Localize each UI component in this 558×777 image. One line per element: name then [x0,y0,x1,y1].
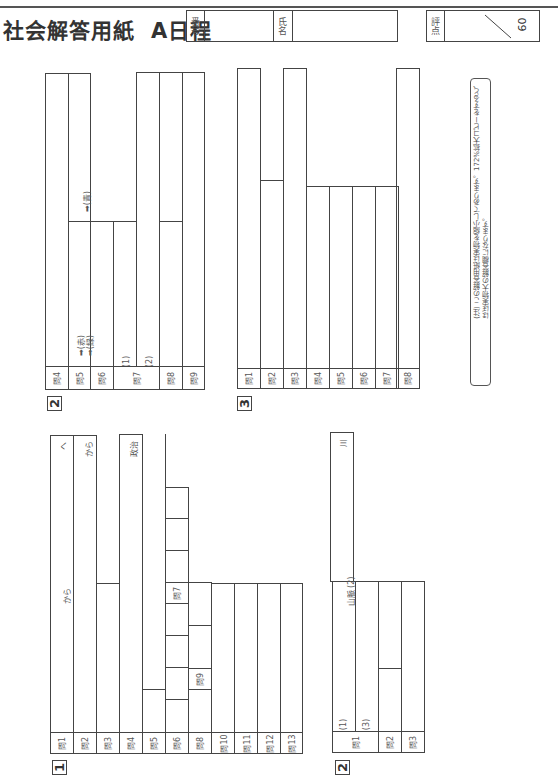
note-line-2: ほぼ実物大の解答欄になります。 [482,214,490,319]
arrow-green-label: (緑) [86,335,95,349]
hint-q1-from: から [58,590,74,601]
label-1-q12: 問12 [257,732,281,754]
label-3-q5: 問5 [329,368,353,389]
student-info-box: 番号 氏名 [186,10,398,42]
page-title: 社会解答用紙A日程 [3,14,212,44]
label-3-q3: 問3 [283,368,307,389]
score-label-cell: 評点 [427,11,445,41]
answer-3-q1[interactable] [237,68,261,369]
label-2-q8: 問8 [159,366,183,390]
label-3-q4: 問4 [306,368,330,389]
label-2-q5: 問5 [68,366,91,390]
answer-2-q7-2[interactable] [136,72,160,367]
answer-1-q5[interactable] [142,689,166,733]
answer-1-q7-b[interactable] [165,518,189,551]
answer-2-q4[interactable] [45,73,69,367]
answer-2-q8-top[interactable] [159,72,183,222]
label-2-q6: 問6 [90,366,114,390]
arrow-blue-hint: ➡(青) [76,196,97,207]
answer-1-q6-b[interactable] [165,635,189,668]
name-label-cell: 氏名 [273,11,293,41]
top-rule [0,6,558,8]
name-field[interactable] [292,11,397,41]
label-2-q1: 問1 [332,731,379,753]
answer-2-q1-3[interactable] [355,581,379,732]
answer-2-q7-1[interactable] [113,221,137,367]
score-total: 60 [516,18,529,32]
section-number-3: 3 [237,396,252,411]
title-text: 社会解答用紙 [3,19,135,43]
hint-river: 川 [338,437,346,448]
label-1-q1: 問1 [50,732,74,754]
answer-2-q8[interactable] [159,221,183,367]
label-1-q2: 問2 [73,732,97,754]
answer-1-q11[interactable] [234,583,258,733]
note-line-1: (注) この解答用紙は実物を縮小してあります。172%拡大コピーをすると、 [473,81,481,319]
label-3-q1: 問1 [237,368,261,389]
label-1-q4: 問4 [119,732,143,754]
label-1-q5: 問5 [142,732,166,754]
label-1-q8: 問8 [188,732,212,754]
sub-label-2: (2) [144,357,155,366]
answer-2-q9[interactable] [182,72,205,367]
section-number-2-lower: 2 [335,760,350,775]
label-1-q13: 問13 [280,732,303,754]
hint-q2-from: から [80,443,96,454]
section-number-2-upper: 2 [47,396,62,411]
label-2-q2: 問2 [378,731,402,753]
answer-1-q8[interactable] [188,689,212,733]
label-2-q7: 問7 [113,366,160,390]
label-1-q6: 問6 [165,732,189,754]
answer-3-q5[interactable] [329,186,353,369]
arrow-blue-icon: ➡ [83,205,92,212]
answer-1-q1[interactable] [50,435,74,733]
number-field[interactable] [205,11,273,41]
label-1-q9: 問9 [188,668,212,690]
label-2-q3: 問3 [401,731,425,753]
section-number-1: 1 [52,760,67,775]
label-3-q8: 問8 [396,368,420,389]
answer-3-q2[interactable] [260,180,284,369]
answer-3-q8[interactable] [396,68,420,369]
answer-3-q3[interactable] [283,68,307,369]
label-1-q11: 問11 [234,732,258,754]
answer-2-q2-a[interactable] [378,581,402,669]
answer-1-q12[interactable] [257,583,281,733]
answer-2-q3[interactable] [401,581,425,732]
answer-1-q3[interactable] [96,583,120,733]
arrow-green-icon: ➡ [86,349,95,356]
answer-1-q9[interactable] [188,625,212,669]
answer-1-q6-c[interactable] [165,667,189,700]
answer-1-q5-area [142,434,166,690]
score-label: 評点 [429,17,442,35]
hint-q4-politics: 政治 [125,443,141,454]
sub-label-2-1: (1) [338,720,349,729]
note-box: (注) この解答用紙は実物を縮小してあります。172%拡大コピーをすると、ほぼ実… [470,78,491,386]
answer-1-q7-c[interactable] [165,550,189,583]
answer-1-q2[interactable] [73,435,97,733]
hint-mountain: 山脈 (2) [336,586,366,597]
answer-1-q13[interactable] [280,583,303,733]
answer-2-q2-b[interactable] [378,668,402,732]
name-label: 氏名 [277,17,290,35]
label-1-q7: 問7 [165,582,189,604]
answer-1-q10[interactable] [211,583,235,733]
answer-1-q6-d[interactable] [165,699,189,733]
answer-1-q8-top[interactable] [188,582,212,626]
answer-3-q6[interactable] [352,186,376,369]
score-box: 評点 60 [426,10,540,42]
answer-1-q7-a[interactable] [165,487,189,519]
note-text: (注) この解答用紙は実物を縮小してあります。172%拡大コピーをすると、ほぼ実… [473,81,491,319]
answer-3-q4[interactable] [306,186,330,369]
spacer [260,68,284,181]
arrow-blue-label: (青) [83,191,92,205]
sub-label-1: (1) [121,357,132,366]
answer-2-q1-river[interactable] [330,432,354,582]
label-3-q6: 問6 [352,368,376,389]
sub-label-2-3: (3) [361,720,372,729]
answer-1-q6-a[interactable] [165,603,189,636]
label-1-q3: 問3 [96,732,120,754]
number-label: 番号 [189,17,202,35]
answer-1-q4[interactable] [119,434,143,733]
label-1-q10: 問10 [211,732,235,754]
